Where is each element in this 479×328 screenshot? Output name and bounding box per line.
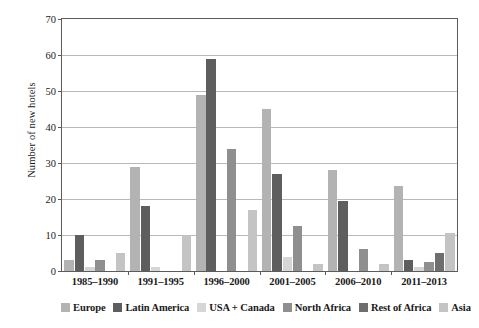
category-label: 2006–2010 — [335, 276, 381, 287]
legend-item: USA + Canada — [197, 302, 274, 313]
legend-item: Europe — [61, 302, 105, 313]
legend-item: Latin America — [113, 302, 189, 313]
bar — [313, 264, 323, 271]
legend-label: North Africa — [295, 302, 351, 313]
category-label: 1985–1990 — [72, 276, 118, 287]
legend-label: Latin America — [125, 302, 189, 313]
legend-item: Rest of Africa — [359, 302, 431, 313]
bar — [338, 201, 348, 271]
bar — [196, 95, 206, 271]
y-tick-label: 60 — [46, 50, 57, 61]
bar — [75, 235, 85, 271]
legend-label: USA + Canada — [209, 302, 274, 313]
bar — [262, 109, 272, 271]
bar — [359, 249, 369, 271]
bar-chart: Number of new hotels 010203040506070 198… — [0, 0, 479, 328]
plot-area: 010203040506070 1985–19901991–19951996–2… — [61, 18, 458, 272]
legend-item: Asia — [439, 302, 470, 313]
y-tick-label: 70 — [46, 14, 57, 25]
bar — [227, 149, 237, 271]
category-tick — [391, 271, 392, 275]
bar — [404, 260, 414, 271]
y-tick-label: 10 — [46, 230, 57, 241]
legend-label: Europe — [73, 302, 105, 313]
bar — [64, 260, 74, 271]
y-tick-label: 20 — [46, 194, 57, 205]
bar — [379, 264, 389, 271]
category-tick — [194, 271, 195, 275]
legend-swatch-asia — [439, 303, 448, 312]
category-tick — [325, 271, 326, 275]
bar — [424, 262, 434, 271]
bar — [116, 253, 126, 271]
bar — [248, 210, 258, 271]
category-label: 1996–2000 — [203, 276, 249, 287]
legend-swatch-usa-canada — [197, 303, 206, 312]
category-label: 2011–2013 — [401, 276, 447, 287]
bar — [151, 267, 161, 271]
bar — [272, 174, 282, 271]
bar — [293, 226, 303, 271]
legend-swatch-rest-of-africa — [359, 303, 368, 312]
category-tick — [128, 271, 129, 275]
bars-layer — [62, 19, 457, 271]
y-axis-title: Number of new hotels — [22, 10, 42, 250]
y-tick-label: 50 — [46, 86, 57, 97]
bar — [414, 267, 424, 271]
bar — [182, 235, 192, 271]
bar — [206, 59, 216, 271]
bar — [283, 257, 293, 271]
legend-item: North Africa — [283, 302, 351, 313]
bar — [394, 186, 404, 271]
legend-swatch-latin-america — [113, 303, 122, 312]
legend-swatch-europe — [61, 303, 70, 312]
legend-label: Asia — [451, 302, 470, 313]
y-tick-label: 0 — [51, 266, 56, 277]
bar — [141, 206, 151, 271]
y-tick-label: 30 — [46, 158, 57, 169]
legend: EuropeLatin AmericaUSA + CanadaNorth Afr… — [61, 298, 461, 316]
bar — [85, 267, 95, 271]
bar — [95, 260, 105, 271]
y-tick-label: 40 — [46, 122, 57, 133]
bar — [435, 253, 445, 271]
bar — [130, 167, 140, 271]
legend-label: Rest of Africa — [371, 302, 431, 313]
category-tick — [260, 271, 261, 275]
bar — [328, 170, 338, 271]
category-label: 2001–2005 — [269, 276, 315, 287]
legend-swatch-north-africa — [283, 303, 292, 312]
category-label: 1991–1995 — [138, 276, 184, 287]
bar — [445, 233, 455, 271]
